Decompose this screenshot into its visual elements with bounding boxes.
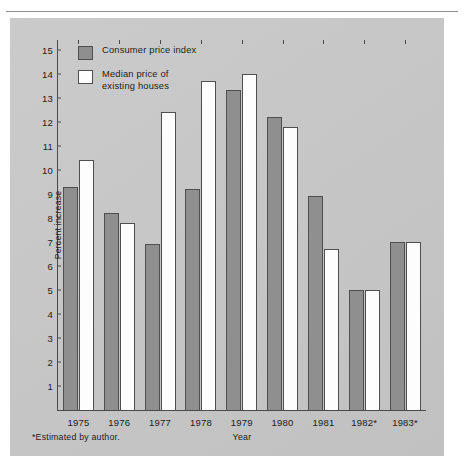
bar-consumer-price-index — [145, 244, 160, 410]
bar-median-price-existing-houses — [120, 223, 135, 410]
x-axis-tick-mark — [323, 40, 324, 44]
bar-group — [385, 40, 426, 410]
y-axis-tick-label: 13 — [42, 92, 53, 103]
y-axis-tick-label: 15 — [42, 44, 53, 55]
bar-median-price-existing-houses — [324, 249, 339, 410]
x-axis-tick-mark — [242, 40, 243, 44]
x-axis-tick-mark — [78, 40, 79, 44]
x-axis-tick-mark — [201, 40, 202, 44]
y-axis-tick-label: 4 — [48, 308, 53, 319]
y-axis-tick-label: 1 — [48, 380, 53, 391]
y-axis-tick-label: 7 — [48, 236, 53, 247]
x-axis-tick-mark — [160, 40, 161, 44]
bar-median-price-existing-houses — [79, 160, 94, 410]
x-axis-label: Year — [233, 432, 252, 442]
x-axis-tick-mark — [364, 40, 365, 44]
page-top-rule — [6, 11, 458, 12]
x-axis-tick-label: 1977 — [149, 417, 171, 428]
x-axis-tick-mark — [405, 40, 406, 44]
x-axis-tick-label: 1979 — [231, 417, 253, 428]
bar-group — [344, 40, 385, 410]
y-axis-tick-label: 10 — [42, 164, 53, 175]
x-axis-tick-mark — [119, 40, 120, 44]
y-axis-tick-label: 8 — [48, 212, 53, 223]
chart-footnote: *Estimated by author. — [32, 432, 120, 442]
bar-group — [262, 40, 303, 410]
bar-consumer-price-index — [308, 196, 323, 410]
figure-panel: Consumer price index Median price of exi… — [10, 18, 444, 456]
bar-group — [58, 40, 99, 410]
y-axis-tick-label: 3 — [48, 332, 53, 343]
bar-median-price-existing-houses — [161, 112, 176, 410]
bar-group — [140, 40, 181, 410]
x-axis-tick-label: 1976 — [108, 417, 130, 428]
y-axis-tick-label: 6 — [48, 260, 53, 271]
bar-consumer-price-index — [349, 290, 364, 410]
bar-group — [99, 40, 140, 410]
x-axis-tick-label: 1975 — [67, 417, 89, 428]
bar-consumer-price-index — [185, 189, 200, 410]
x-axis-tick-label: 1982* — [351, 417, 377, 428]
y-axis-tick-label: 14 — [42, 68, 53, 79]
x-axis-tick-label: 1980 — [272, 417, 294, 428]
plot-frame: Percent increase 123456789101112131415 1… — [57, 40, 426, 411]
bar-group — [181, 40, 222, 410]
bar-consumer-price-index — [104, 213, 119, 410]
plot-area — [58, 40, 426, 410]
y-axis-tick-label: 11 — [43, 140, 53, 151]
bar-median-price-existing-houses — [283, 127, 298, 411]
y-axis-tick-label: 2 — [48, 356, 53, 367]
bar-median-price-existing-houses — [242, 74, 257, 410]
y-axis-tick-label: 5 — [48, 284, 53, 295]
bar-median-price-existing-houses — [365, 290, 380, 410]
bar-group — [221, 40, 262, 410]
bar-median-price-existing-houses — [406, 242, 421, 410]
y-axis-tick-label: 9 — [48, 188, 53, 199]
x-axis-tick-label: 1981 — [312, 417, 334, 428]
x-axis-tick-label: 1983* — [392, 417, 418, 428]
x-axis-tick-mark — [283, 40, 284, 44]
y-axis-tick-label: 12 — [42, 116, 53, 127]
bar-consumer-price-index — [63, 187, 78, 410]
x-axis-tick-label: 1978 — [190, 417, 212, 428]
bar-consumer-price-index — [267, 117, 282, 410]
bar-group — [303, 40, 344, 410]
bar-consumer-price-index — [226, 90, 241, 410]
bar-consumer-price-index — [390, 242, 405, 410]
bar-median-price-existing-houses — [201, 81, 216, 410]
